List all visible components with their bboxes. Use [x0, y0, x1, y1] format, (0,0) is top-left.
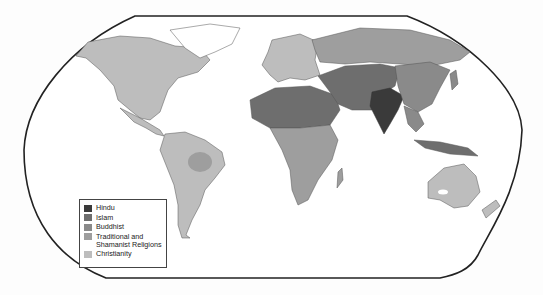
legend-item-islam: Islam	[84, 214, 162, 222]
legend-label-line2: Shamanist Religions	[96, 240, 162, 249]
legend-label: Islam	[96, 214, 113, 222]
legend-item-hindu: Hindu	[84, 204, 162, 212]
buddhist-swatch	[84, 224, 92, 231]
legend-label: Buddhist	[96, 223, 124, 231]
hindu-swatch	[84, 205, 92, 212]
legend-label: Traditional and Shamanist Religions	[96, 233, 162, 249]
legend-item-traditional: Traditional and Shamanist Religions	[84, 233, 162, 249]
amazon-traditional	[188, 152, 212, 172]
legend-item-christianity: Christianity	[84, 250, 162, 258]
traditional-swatch	[84, 233, 92, 240]
map-legend: Hindu Islam Buddhist Traditional and Sha…	[79, 199, 167, 268]
legend-label: Hindu	[96, 204, 115, 212]
christianity-swatch	[84, 251, 92, 258]
legend-label: Christianity	[96, 250, 132, 258]
islam-swatch	[84, 214, 92, 221]
australia-desert	[438, 190, 448, 195]
legend-item-buddhist: Buddhist	[84, 223, 162, 231]
